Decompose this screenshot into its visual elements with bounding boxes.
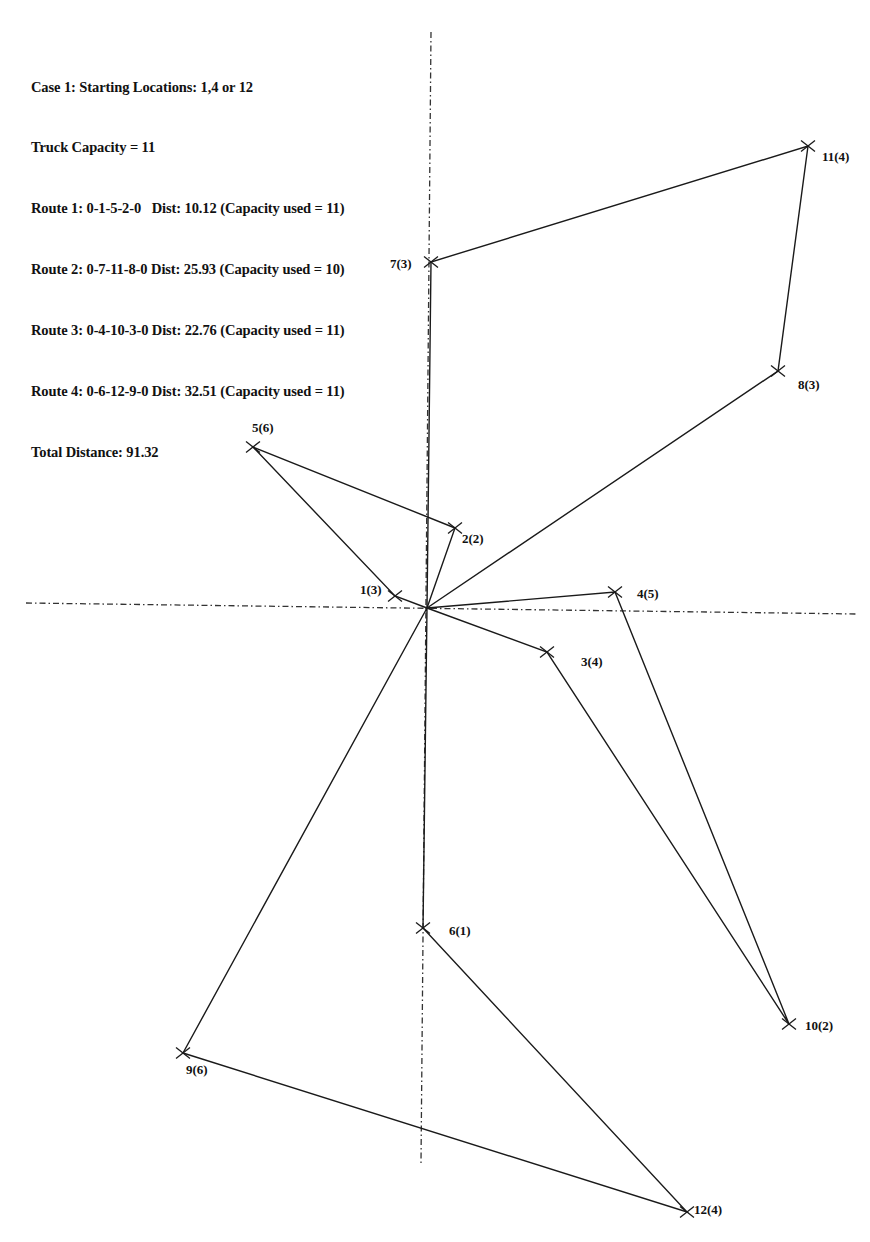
node-label: 1(3) — [360, 582, 382, 597]
node-label: 12(4) — [694, 1202, 722, 1217]
node-label: 10(2) — [805, 1018, 833, 1033]
route-3-path — [427, 592, 789, 1024]
node-1: 1(3) — [360, 582, 402, 602]
node-10: 10(2) — [782, 1018, 833, 1033]
vertical-axis — [421, 32, 431, 1163]
route-4-path — [183, 608, 687, 1212]
x-marker-icon — [680, 1206, 694, 1217]
node-9: 9(6) — [176, 1047, 208, 1077]
node-label: 6(1) — [449, 923, 471, 938]
node-label: 5(6) — [252, 420, 274, 435]
node-11: 11(4) — [801, 140, 849, 164]
node-label: 9(6) — [186, 1062, 208, 1077]
node-5: 5(6) — [246, 420, 274, 453]
x-marker-icon — [448, 522, 462, 533]
vehicle-routing-diagram: 1(3)2(2)3(4)4(5)5(6)6(1)7(3)8(3)9(6)10(2… — [0, 0, 870, 1242]
node-3: 3(4) — [540, 646, 603, 669]
node-label: 11(4) — [822, 149, 849, 164]
node-label: 7(3) — [390, 256, 412, 271]
x-marker-icon — [176, 1047, 190, 1058]
node-label: 2(2) — [462, 531, 484, 546]
route-2-path — [427, 146, 808, 608]
horizontal-axis — [26, 603, 857, 614]
node-label: 8(3) — [798, 377, 820, 392]
node-label: 4(5) — [637, 586, 659, 601]
node-label: 3(4) — [581, 654, 603, 669]
x-marker-icon — [388, 590, 402, 601]
node-12: 12(4) — [680, 1202, 722, 1218]
customer-nodes: 1(3)2(2)3(4)4(5)5(6)6(1)7(3)8(3)9(6)10(2… — [176, 140, 849, 1217]
route-lines — [183, 146, 808, 1212]
x-marker-icon — [246, 441, 260, 452]
route-1-path — [253, 447, 455, 608]
x-marker-icon — [540, 646, 554, 657]
x-marker-icon — [782, 1018, 796, 1029]
